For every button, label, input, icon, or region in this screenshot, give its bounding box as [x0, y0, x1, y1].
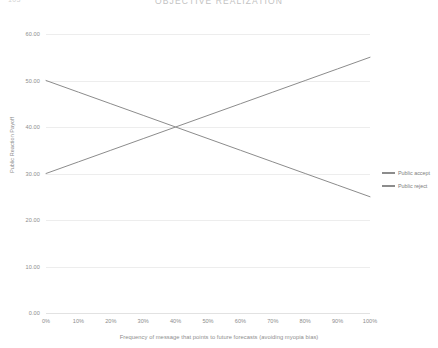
line-chart: 0.0010.0020.0030.0040.0050.0060.00 0%10%… [0, 0, 438, 348]
legend-item[interactable]: Public reject [382, 181, 438, 191]
legend-line-icon [382, 172, 395, 173]
chart-page: 103 OBJECTIVE REALIZATION 0.0010.0020.00… [0, 0, 438, 348]
series-line [46, 81, 370, 197]
legend-line-icon [382, 185, 395, 186]
legend-label: Public reject [398, 183, 427, 189]
series-line [46, 57, 370, 173]
chart-legend: Public acceptPublic reject [382, 168, 438, 194]
series-layer [0, 0, 438, 348]
legend-label: Public accept [398, 170, 430, 176]
legend-item[interactable]: Public accept [382, 168, 438, 178]
